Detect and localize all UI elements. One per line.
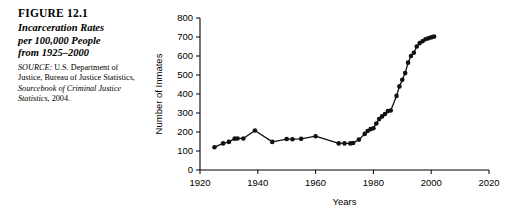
y-tick-label: 500 xyxy=(177,69,193,80)
figure-title-line-1: Incarceration Rates xyxy=(18,22,142,35)
x-tick-label: 1920 xyxy=(189,177,210,188)
y-tick-label: 400 xyxy=(177,88,193,99)
y-tick-label: 0 xyxy=(188,164,193,175)
data-point xyxy=(241,136,246,141)
chart-container: 0100200300400500600700800 19201940196019… xyxy=(148,0,508,213)
y-tick-label: 200 xyxy=(177,126,193,137)
data-point xyxy=(374,121,379,126)
figure-label: FIGURE 12.1 xyxy=(18,6,142,20)
figure-source: SOURCE: U.S. Department of Justice, Bure… xyxy=(18,63,142,105)
data-point xyxy=(400,77,405,82)
figure-title-line-2: per 100,000 People xyxy=(18,35,142,48)
y-tick-label: 100 xyxy=(177,145,193,156)
line-chart: 0100200300400500600700800 19201940196019… xyxy=(148,0,508,213)
data-point xyxy=(235,136,240,141)
x-tick-label: 1940 xyxy=(247,177,268,188)
x-tick-label: 1960 xyxy=(305,177,326,188)
figure-title-line-3: from 1925–2000 xyxy=(18,47,142,60)
data-point xyxy=(403,71,408,76)
y-tick-label: 600 xyxy=(177,50,193,61)
data-point xyxy=(351,141,356,146)
data-point xyxy=(394,94,399,99)
data-point xyxy=(388,108,393,113)
source-text-2: , 2004. xyxy=(48,94,71,103)
y-axis-title: Number of Inmates xyxy=(153,53,164,134)
data-series-line xyxy=(214,37,434,148)
figure-caption: FIGURE 12.1 Incarceration Rates per 100,… xyxy=(0,0,148,213)
figure-root: FIGURE 12.1 Incarceration Rates per 100,… xyxy=(0,0,508,213)
source-prefix: SOURCE: xyxy=(18,63,52,72)
data-point xyxy=(299,137,304,142)
x-axis-ticks: 192019401960198020002020 xyxy=(189,170,499,188)
data-point xyxy=(284,137,289,142)
y-tick-label: 700 xyxy=(177,31,193,42)
data-point xyxy=(212,145,217,150)
y-axis-ticks: 0100200300400500600700800 xyxy=(177,12,200,175)
data-point xyxy=(432,34,437,39)
data-point xyxy=(227,140,232,145)
data-point xyxy=(406,60,411,65)
data-point xyxy=(313,134,318,139)
data-point xyxy=(371,126,376,131)
data-point xyxy=(221,141,226,146)
data-point xyxy=(342,141,347,146)
figure-title: Incarceration Rates per 100,000 People f… xyxy=(18,22,142,60)
x-tick-label: 1980 xyxy=(363,177,384,188)
x-tick-label: 2020 xyxy=(478,177,499,188)
data-point xyxy=(253,128,258,133)
y-tick-label: 800 xyxy=(177,12,193,23)
data-point xyxy=(270,140,275,145)
data-point xyxy=(397,84,402,89)
x-axis-title: Years xyxy=(333,196,357,207)
data-point xyxy=(336,141,341,146)
data-point xyxy=(357,137,362,142)
y-tick-label: 300 xyxy=(177,107,193,118)
x-tick-label: 2000 xyxy=(421,177,442,188)
data-series-markers xyxy=(212,34,436,149)
data-point xyxy=(412,50,417,55)
data-point xyxy=(290,137,295,142)
